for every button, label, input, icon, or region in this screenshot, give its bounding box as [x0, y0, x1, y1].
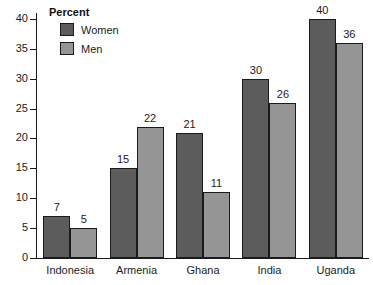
- x-axis-label-armenia: Armenia: [103, 264, 169, 276]
- y-tick-label: 25: [2, 103, 28, 114]
- legend-label-men: Men: [81, 43, 102, 55]
- legend-swatch-men-icon: [60, 42, 74, 55]
- legend-item-men: Men: [60, 41, 119, 56]
- y-tick-mark: [30, 198, 37, 199]
- y-tick-mark: [30, 228, 37, 229]
- y-tick-mark: [30, 168, 37, 169]
- y-tick-label: 10: [2, 192, 28, 203]
- legend-item-women: Women: [60, 22, 119, 37]
- x-axis-line: [36, 258, 369, 259]
- bar-uganda-women: [309, 19, 336, 258]
- y-tick-label: 5: [2, 222, 28, 233]
- chart-legend: Percent Women Men: [49, 6, 119, 60]
- bar-uganda-men: [336, 43, 363, 258]
- bar-value-label: 40: [303, 5, 342, 16]
- bar-armenia-men: [137, 127, 164, 258]
- bar-value-label: 30: [236, 65, 275, 76]
- y-tick-label: 40: [2, 13, 28, 24]
- bar-value-label: 22: [131, 113, 170, 124]
- bar-value-label: 26: [263, 89, 302, 100]
- x-axis-label-ghana: Ghana: [170, 264, 236, 276]
- y-axis-line: [36, 13, 37, 259]
- legend-swatch-women-icon: [60, 23, 74, 36]
- x-axis-label-uganda: Uganda: [303, 264, 369, 276]
- y-tick-mark: [30, 109, 37, 110]
- bar-india-women: [242, 79, 269, 258]
- x-axis-label-india: India: [236, 264, 302, 276]
- y-tick-mark: [30, 258, 37, 259]
- y-tick-mark: [30, 49, 37, 50]
- bar-value-label: 7: [37, 202, 76, 213]
- legend-label-women: Women: [81, 24, 119, 36]
- y-tick-mark: [30, 79, 37, 80]
- bar-indonesia-men: [70, 228, 97, 258]
- bar-ghana-women: [176, 133, 203, 258]
- y-tick-label: 20: [2, 132, 28, 143]
- bar-value-label: 36: [330, 29, 369, 40]
- y-tick-mark: [30, 138, 37, 139]
- x-axis-label-indonesia: Indonesia: [37, 264, 103, 276]
- y-tick-label: 35: [2, 43, 28, 54]
- bar-chart: Percent Women Men 0510152025303540 75Ind…: [0, 0, 373, 285]
- y-tick-label: 0: [2, 252, 28, 263]
- bar-ghana-men: [203, 192, 230, 258]
- bar-value-label: 11: [197, 178, 236, 189]
- y-tick-label: 15: [2, 162, 28, 173]
- legend-title: Percent: [49, 6, 119, 19]
- bar-armenia-women: [110, 168, 137, 258]
- y-tick-label: 30: [2, 73, 28, 84]
- bar-value-label: 5: [64, 214, 103, 225]
- bar-value-label: 21: [170, 119, 209, 130]
- bar-india-men: [269, 103, 296, 258]
- y-tick-mark: [30, 19, 37, 20]
